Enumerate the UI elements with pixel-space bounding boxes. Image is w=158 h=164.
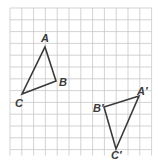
triangle-abc	[22, 47, 56, 94]
label-b-prime: B′	[93, 102, 105, 114]
label-a-prime: A′	[136, 85, 149, 97]
triangle-grid-figure: A B C A′ B′ C′	[0, 0, 158, 164]
triangle-a-prime-b-prime-c-prime	[104, 96, 139, 149]
label-c: C	[15, 97, 24, 109]
label-a: A	[40, 32, 49, 44]
label-c-prime: C′	[111, 149, 123, 161]
grid	[10, 8, 152, 156]
label-b: B	[59, 76, 67, 88]
